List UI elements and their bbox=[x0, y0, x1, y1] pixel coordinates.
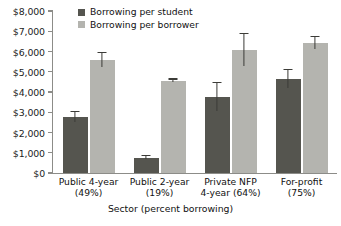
x-axis-label-2: Private NFP 4-year (64%) bbox=[195, 176, 266, 199]
y-axis-tick-label: $8,000 bbox=[13, 6, 45, 17]
error-bar-student-1 bbox=[134, 156, 159, 173]
bar-chart: Borrowing per student Borrowing per borr… bbox=[0, 0, 341, 226]
error-bar-cap-upper bbox=[142, 155, 151, 156]
error-bar-stem bbox=[172, 80, 173, 82]
error-bar-cap-upper bbox=[311, 36, 320, 37]
error-bar-cap-upper bbox=[213, 82, 222, 83]
error-bar-stem bbox=[216, 83, 217, 111]
y-axis-tick-label: $6,000 bbox=[13, 46, 45, 57]
error-bar-cap-upper bbox=[240, 33, 249, 34]
plot-area bbox=[53, 11, 337, 173]
error-bar-stem bbox=[101, 53, 102, 67]
y-axis-tick-label: $4,000 bbox=[13, 87, 45, 98]
x-axis-title: Sector (percent borrowing) bbox=[0, 203, 341, 214]
y-axis-tick-label: $7,000 bbox=[13, 26, 45, 37]
x-axis-label-1: Public 2-year (19%) bbox=[124, 176, 195, 199]
x-axis-line bbox=[52, 173, 337, 174]
error-bar-cap-upper bbox=[71, 111, 80, 112]
x-axis-label-3: For-profit (75%) bbox=[266, 176, 337, 199]
x-axis-label-0: Public 4-year (49%) bbox=[53, 176, 124, 199]
error-bar-cap-upper bbox=[169, 78, 178, 79]
y-axis-tick-label: $5,000 bbox=[13, 66, 45, 77]
error-bar-student-3 bbox=[276, 70, 301, 173]
error-bar-stem bbox=[243, 34, 244, 66]
y-axis-tick-label: $1,000 bbox=[13, 147, 45, 158]
error-bar-borrower-3 bbox=[303, 37, 328, 173]
error-bar-stem bbox=[287, 70, 288, 88]
y-axis-tick-label: $2,000 bbox=[13, 127, 45, 138]
error-bar-cap-upper bbox=[284, 69, 293, 70]
error-bar-student-0 bbox=[63, 112, 88, 173]
error-bar-stem bbox=[314, 37, 315, 49]
error-bar-borrower-1 bbox=[161, 80, 186, 173]
y-axis-tick-label: $0 bbox=[33, 168, 45, 179]
error-bar-student-2 bbox=[205, 83, 230, 173]
error-bar-borrower-2 bbox=[232, 34, 257, 173]
error-bar-stem bbox=[145, 156, 146, 159]
error-bar-stem bbox=[74, 112, 75, 122]
error-bar-cap-upper bbox=[98, 52, 107, 53]
y-axis-tick-label: $3,000 bbox=[13, 107, 45, 118]
error-bar-borrower-0 bbox=[90, 53, 115, 173]
